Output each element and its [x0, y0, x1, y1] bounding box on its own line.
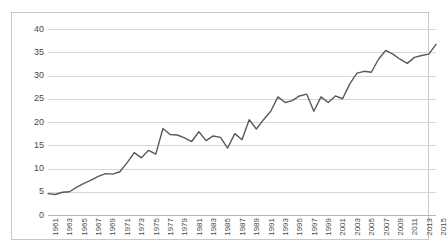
x-tick-label: 1961 [52, 218, 60, 236]
x-tick-label: 1963 [66, 218, 74, 236]
y-tick-label: 30 [34, 71, 44, 80]
x-tick-label: 1987 [239, 218, 247, 236]
x-tick-label: 2015 [440, 218, 448, 236]
x-tick-label: 1981 [196, 218, 204, 236]
y-tick-label: 40 [34, 25, 44, 34]
x-axis-tick-labels: 1961196319651967196919711973197519771979… [48, 218, 436, 251]
y-tick-label: 20 [34, 118, 44, 127]
x-tick-label: 1991 [268, 218, 276, 236]
x-tick-label: 1965 [81, 218, 89, 236]
x-tick-label: 1977 [167, 218, 175, 236]
x-tick-label: 1967 [95, 218, 103, 236]
x-tick-label: 1999 [325, 218, 333, 236]
y-tick-label: 0 [39, 211, 44, 220]
x-tick-label: 1983 [210, 218, 218, 236]
x-tick-label: 1989 [253, 218, 261, 236]
y-tick-label: 5 [39, 187, 44, 196]
chart-frame: 0510152025303540 19611963196519671969197… [11, 12, 429, 240]
x-tick-label: 1997 [311, 218, 319, 236]
x-tick-label: 1985 [224, 218, 232, 236]
x-tick-label: 1993 [282, 218, 290, 236]
x-tick-label: 2005 [368, 218, 376, 236]
x-tick-label: 2007 [383, 218, 391, 236]
x-tick-label: 1979 [181, 218, 189, 236]
x-tick-label: 2001 [339, 218, 347, 236]
x-tick-label: 1973 [138, 218, 146, 236]
x-tick-label: 1975 [153, 218, 161, 236]
x-tick-label: 1969 [109, 218, 117, 236]
x-tick-label: 2011 [411, 218, 419, 235]
y-axis-tick-labels: 0510152025303540 [24, 29, 44, 215]
series-path-value [48, 44, 436, 194]
x-tick-label: 1995 [296, 218, 304, 236]
y-tick-label: 15 [34, 141, 44, 150]
x-tick-label: 2013 [426, 218, 434, 236]
y-tick-label: 35 [34, 48, 44, 57]
x-tick-label: 2003 [354, 218, 362, 236]
plot-area [48, 29, 436, 215]
y-tick-label: 25 [34, 94, 44, 103]
x-tick-label: 2009 [397, 218, 405, 236]
x-tick-label: 1971 [124, 218, 132, 236]
data-series-line [48, 29, 436, 215]
y-tick-label: 10 [34, 164, 44, 173]
